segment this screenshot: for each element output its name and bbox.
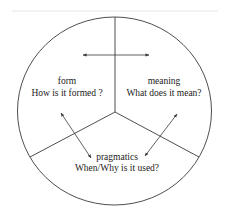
form-title: form [58, 76, 77, 86]
form-question: How is it formed ? [31, 88, 102, 98]
divider-right [115, 112, 199, 157]
divider-left [30, 112, 115, 157]
meaning-title: meaning [148, 76, 181, 86]
form-meaning-pragmatics-diagram: form How is it formed ? meaning What doe… [0, 0, 226, 217]
arrow-form-pragmatics [61, 113, 91, 158]
meaning-question: What does it mean? [126, 88, 201, 98]
pragmatics-question: When/Why is it used? [75, 163, 159, 173]
outer-circle [18, 17, 212, 205]
arrow-meaning-pragmatics [145, 114, 177, 156]
pragmatics-title: pragmatics [96, 152, 138, 162]
